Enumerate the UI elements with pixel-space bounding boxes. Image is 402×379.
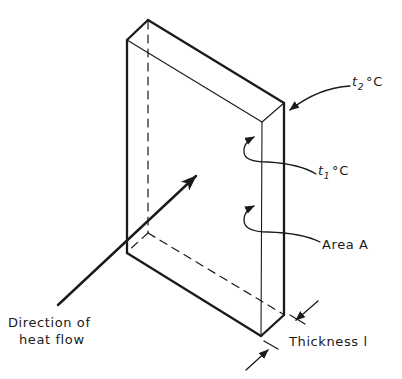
- hidden-back-bottom-edge: [148, 233, 283, 314]
- heat-flow-label-line1: Direction of: [8, 315, 91, 330]
- thickness-arrow-lower-icon: [246, 350, 268, 370]
- back-top-edge: [148, 20, 284, 103]
- hidden-bottom-left-depth-edge: [127, 233, 148, 252]
- area-label: Area A: [322, 237, 369, 252]
- front-right-edge: [261, 122, 262, 336]
- bottom-right-depth-edge: [261, 315, 284, 336]
- thickness-tick-upper: [290, 315, 305, 324]
- thickness-arrow-upper-icon: [296, 301, 318, 320]
- top-right-depth-edge: [262, 103, 284, 122]
- hidden-edges: [127, 21, 283, 314]
- area-leader-arrow-icon: [244, 206, 320, 242]
- t1-label: t1°C: [318, 163, 349, 181]
- t2-label: t2°C: [352, 74, 383, 92]
- heat-flow-label-line2: heat flow: [19, 332, 85, 347]
- top-left-depth-edge: [127, 20, 148, 40]
- front-bottom-edge: [127, 253, 261, 336]
- slab: [127, 20, 284, 336]
- thickness-label: Thickness l: [288, 334, 368, 349]
- front-top-edge: [127, 40, 262, 122]
- thickness-tick-lower: [264, 341, 278, 349]
- t2-leader-arrow-icon: [290, 86, 350, 110]
- t1-leader-arrow-icon: [244, 137, 316, 174]
- slab-diagram: t2°C t1°C Area A Thickness l Direction o…: [0, 0, 402, 379]
